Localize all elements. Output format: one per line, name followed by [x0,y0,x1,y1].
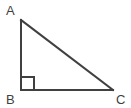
vertex-label-b: B [6,92,15,107]
vertex-label-c: C [116,92,125,107]
triangle-svg: A B C [0,0,131,108]
right-triangle-figure: A B C [0,0,131,108]
right-angle-marker-b [21,77,34,90]
vertex-label-a: A [6,3,15,18]
